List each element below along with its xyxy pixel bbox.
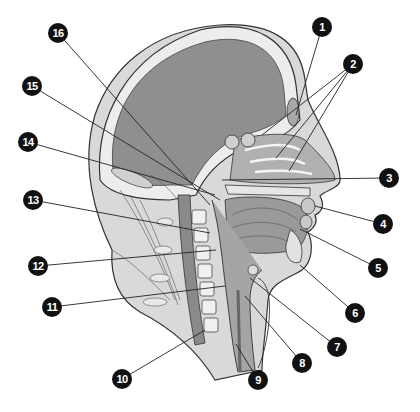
callout-2: 2: [343, 54, 363, 74]
leader-line-10: [122, 330, 205, 379]
callout-13: 13: [23, 190, 43, 210]
callout-5: 5: [368, 258, 388, 278]
callout-9: 9: [248, 370, 268, 390]
callout-10: 10: [112, 369, 132, 389]
callout-8: 8: [292, 353, 312, 373]
callout-6: 6: [345, 303, 365, 323]
callout-15: 15: [22, 76, 42, 96]
callout-16: 16: [48, 23, 68, 43]
callout-4: 4: [373, 214, 393, 234]
callout-11: 11: [42, 297, 62, 317]
callout-7: 7: [327, 337, 347, 357]
callout-1: 1: [312, 17, 332, 37]
callout-12: 12: [28, 256, 48, 276]
callout-3: 3: [379, 168, 399, 188]
callout-14: 14: [18, 132, 38, 152]
